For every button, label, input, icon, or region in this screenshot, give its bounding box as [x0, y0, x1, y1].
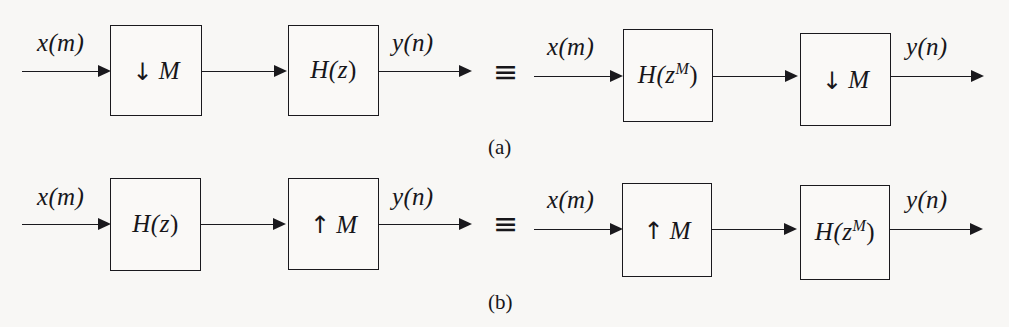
arrowhead-mid-b-left — [273, 218, 286, 230]
block-label-downsampler-a-right-2: ↓M — [822, 67, 869, 92]
block-downsampler-a-left-1[interactable]: ↓M — [110, 25, 202, 116]
wire-output-b-left — [379, 224, 461, 225]
arrowhead-output-a-right — [971, 70, 984, 82]
block-filter-b-left-1[interactable]: H(z) — [110, 178, 201, 271]
wire-output-a-right — [891, 76, 973, 77]
subfigure-caption-a: (a) — [488, 137, 511, 158]
block-label-filter-b-right-2: H(zM) — [815, 219, 875, 244]
equivalence-symbol-b: ≡ — [493, 209, 518, 239]
arrowhead-output-a-left — [459, 65, 472, 77]
equivalence-symbol-a: ≡ — [493, 57, 518, 87]
up-arrow-icon: ↑ — [644, 219, 664, 243]
block-filter-b-right-2[interactable]: H(zM) — [800, 185, 890, 280]
wire-mid-b-left — [201, 224, 275, 225]
wire-input-a-left — [22, 71, 100, 72]
output-signal-label-a-right: y(n) — [906, 34, 947, 59]
up-arrow-icon: ↑ — [310, 213, 330, 237]
wire-input-a-right — [534, 76, 612, 77]
subfigure-caption-b: (b) — [488, 292, 513, 313]
output-signal-label-b-right: y(n) — [906, 187, 947, 212]
block-label-filter-a-right-1: H(zM) — [638, 62, 698, 87]
arrowhead-input-a-right — [610, 70, 623, 82]
wire-output-b-right — [890, 229, 972, 230]
arrowhead-mid-b-right — [784, 223, 797, 235]
block-label-upsampler-b-right-1: ↑M — [644, 218, 691, 243]
wire-mid-a-right — [713, 76, 787, 77]
block-label-downsampler-a-left-1: ↓M — [133, 58, 180, 83]
block-downsampler-a-right-2[interactable]: ↓M — [800, 33, 891, 126]
arrowhead-mid-a-left — [274, 65, 287, 77]
block-label-upsampler-b-left-2: ↑M — [310, 212, 357, 237]
wire-mid-a-left — [202, 71, 276, 72]
wire-mid-b-right — [712, 229, 786, 230]
input-signal-label-b-left: x(m) — [37, 184, 84, 209]
block-label-filter-a-left-2: H(z) — [310, 57, 356, 82]
arrowhead-mid-a-right — [785, 70, 798, 82]
wire-output-a-left — [379, 71, 461, 72]
wire-input-b-right — [534, 229, 612, 230]
block-upsampler-b-right-1[interactable]: ↑M — [622, 183, 712, 277]
wire-input-b-left — [22, 224, 100, 225]
multirate-noble-identities-figure: x(m) ↓M H(z) y(n) ≡ x(m) H(zM) ↓M — [0, 0, 1009, 327]
arrowhead-output-b-right — [970, 223, 983, 235]
input-signal-label-a-left: x(m) — [37, 30, 84, 55]
block-upsampler-b-left-2[interactable]: ↑M — [288, 178, 379, 270]
block-filter-a-left-2[interactable]: H(z) — [288, 25, 379, 116]
block-label-filter-b-left-1: H(z) — [132, 211, 178, 236]
block-filter-a-right-1[interactable]: H(zM) — [623, 29, 713, 122]
down-arrow-icon: ↓ — [822, 69, 842, 93]
input-signal-label-a-right: x(m) — [547, 34, 594, 59]
output-signal-label-a-left: y(n) — [392, 30, 433, 55]
down-arrow-icon: ↓ — [133, 60, 153, 84]
input-signal-label-b-right: x(m) — [547, 187, 594, 212]
arrowhead-output-b-left — [459, 218, 472, 230]
output-signal-label-b-left: y(n) — [392, 184, 433, 209]
